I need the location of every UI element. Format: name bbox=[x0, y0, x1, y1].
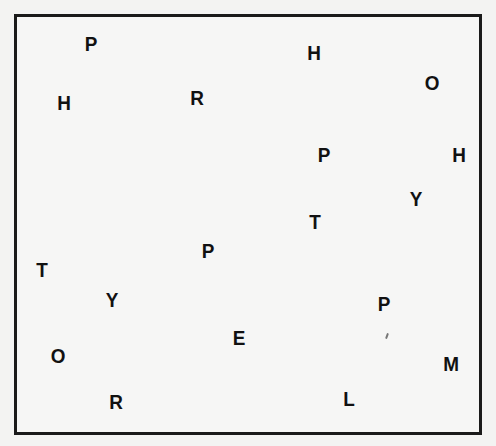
letter-11: Y bbox=[106, 289, 119, 310]
letter-1: H bbox=[57, 92, 71, 113]
letter-7: Y bbox=[410, 188, 423, 209]
letter-board-page: P H R H O P H Y T P T Y P E O M R L bbox=[0, 0, 496, 446]
letter-15: M bbox=[443, 353, 459, 374]
letter-0: P bbox=[85, 33, 98, 54]
letter-3: H bbox=[307, 42, 321, 63]
letter-14: O bbox=[51, 345, 66, 366]
letter-8: T bbox=[309, 211, 321, 232]
letter-16: R bbox=[109, 391, 123, 412]
letter-12: P bbox=[378, 293, 391, 314]
letter-9: P bbox=[202, 240, 215, 261]
letter-2: R bbox=[190, 87, 204, 108]
letter-5: P bbox=[318, 144, 331, 165]
letter-6: H bbox=[452, 144, 466, 165]
letter-17: L bbox=[343, 388, 355, 409]
letter-10: T bbox=[36, 259, 48, 280]
letter-board-frame bbox=[14, 14, 482, 435]
letter-4: O bbox=[425, 72, 440, 93]
letter-13: E bbox=[233, 327, 246, 348]
